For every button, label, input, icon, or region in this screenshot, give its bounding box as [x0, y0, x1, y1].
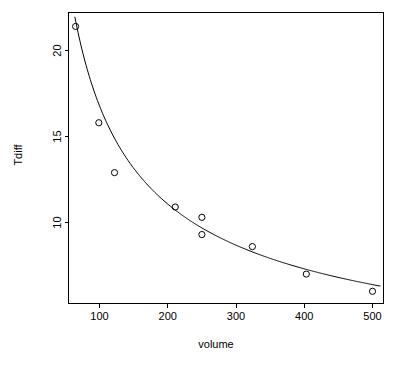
x-tick-label-500: 500 [363, 310, 381, 322]
x-tick-label-300: 300 [227, 310, 245, 322]
y-tick-label-20: 20 [51, 44, 63, 56]
x-tick-label-100: 100 [90, 310, 108, 322]
x-tick-label-200: 200 [159, 310, 177, 322]
x-axis-title: volume [198, 338, 233, 350]
scatter-plot-figure: 20 15 10 100 200 300 400 500 volume Tdif… [0, 0, 397, 367]
y-axis-title: Tdiff [12, 143, 24, 165]
x-tick-label-400: 400 [295, 310, 313, 322]
plot-canvas: 20 15 10 100 200 300 400 500 volume Tdif… [0, 0, 397, 367]
y-tick-label-15: 15 [51, 130, 63, 142]
y-tick-label-10: 10 [51, 216, 63, 228]
